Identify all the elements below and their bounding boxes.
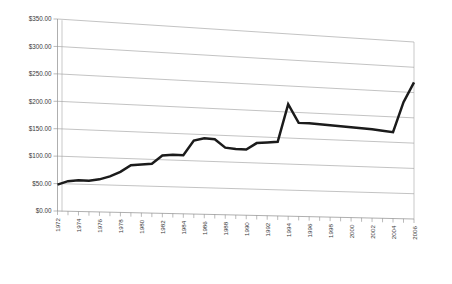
plot-walls xyxy=(58,19,415,219)
gridline xyxy=(58,156,415,168)
x-axis-tick-label: 2006 xyxy=(411,225,418,239)
y-axis-ticks xyxy=(54,19,58,211)
series-line xyxy=(58,82,415,184)
y-axis-tick-label: $300.00 xyxy=(29,43,52,50)
data-series xyxy=(58,82,415,184)
x-axis-tick-label: 1980 xyxy=(138,219,145,233)
x-axis-tick-label: 1978 xyxy=(117,219,124,233)
y-axis-tick-label: $250.00 xyxy=(29,70,52,77)
x-axis-tick-label: 2004 xyxy=(390,225,397,239)
gridline xyxy=(58,129,415,143)
y-axis-tick-label: $100.00 xyxy=(29,152,52,159)
gridline xyxy=(58,184,415,194)
x-axis-tick-label: 1990 xyxy=(243,222,250,236)
x-axis-tick-label: 1992 xyxy=(264,222,271,236)
x-axis-tick-label: 1996 xyxy=(306,223,313,237)
gridline xyxy=(58,101,415,118)
x-axis-tick-label: 1972 xyxy=(54,217,61,231)
x-axis-tick-label: 1974 xyxy=(75,218,82,232)
x-axis-tick-label: 1982 xyxy=(159,220,166,234)
y-axis-tick-label: $350.00 xyxy=(29,15,52,22)
gridline xyxy=(58,19,415,42)
y-axis-tick-label: $0.00 xyxy=(36,207,52,214)
y-axis-tick-label: $50.00 xyxy=(32,180,52,187)
y-axis-labels: $0.00$50.00$100.00$150.00$200.00$250.00$… xyxy=(29,15,52,214)
gridline xyxy=(58,74,415,93)
x-axis-labels: 1972197419761978198019821984198619881990… xyxy=(54,217,418,239)
gridline xyxy=(58,46,415,67)
x-axis-tick-label: 1976 xyxy=(96,218,103,232)
x-axis-ticks xyxy=(58,211,415,223)
y-axis-tick-label: $200.00 xyxy=(29,98,52,105)
y-axis-tick-label: $150.00 xyxy=(29,125,52,132)
x-axis-tick-label: 1994 xyxy=(285,223,292,237)
x-axis-tick-label: 2002 xyxy=(369,225,376,239)
x-axis-tick-label: 2000 xyxy=(348,224,355,238)
x-axis-tick-label: 1986 xyxy=(201,221,208,235)
x-axis-tick-label: 1984 xyxy=(180,220,187,234)
gridlines xyxy=(58,19,415,219)
x-axis-tick-label: 1988 xyxy=(222,221,229,235)
x-axis-tick-label: 1998 xyxy=(327,224,334,238)
chart-canvas: $0.00$50.00$100.00$150.00$200.00$250.00$… xyxy=(0,0,452,284)
line-chart: $0.00$50.00$100.00$150.00$200.00$250.00$… xyxy=(0,0,452,284)
